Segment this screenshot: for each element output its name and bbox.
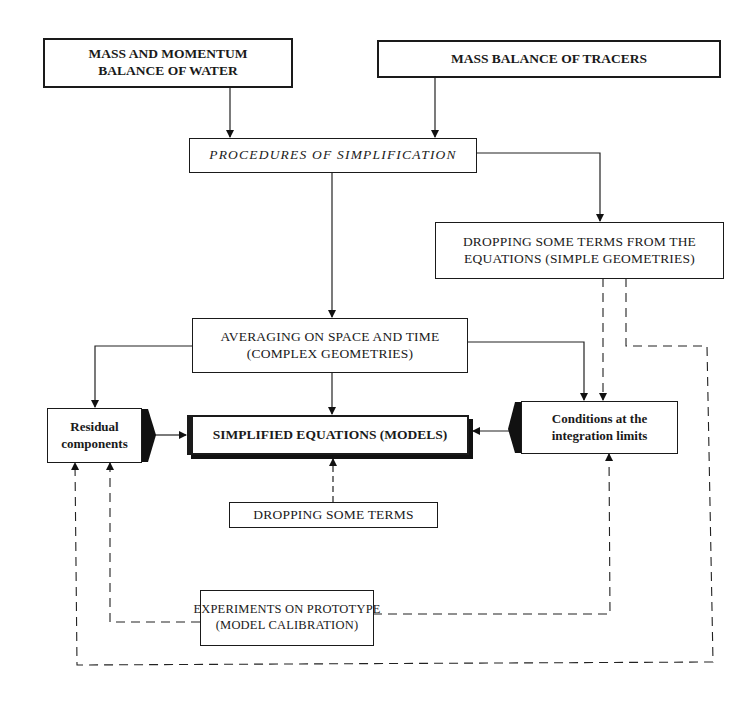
edge-experiments-to-conditions: [373, 454, 610, 614]
node-experiments-prototype: EXPERIMENTS ON PROTOTYPE (MODEL CALIBRAT…: [200, 590, 374, 646]
node-label: SIMPLIFIED EQUATIONS (MODELS): [213, 427, 448, 444]
node-label: DROPPING SOME TERMS: [253, 507, 413, 524]
node-averaging-space-time: AVERAGING ON SPACE AND TIME (COMPLEX GEO…: [192, 318, 468, 373]
node-dropping-some-terms: DROPPING SOME TERMS: [229, 502, 438, 528]
node-label: DROPPING SOME TERMS FROM THE: [463, 234, 696, 251]
node-label: EXPERIMENTS ON PROTOTYPE: [193, 602, 380, 618]
node-label: components: [61, 436, 127, 452]
node-mass-balance-tracers: MASS BALANCE OF TRACERS: [377, 40, 721, 78]
node-mass-momentum-water: MASS AND MOMENTUM BALANCE OF WATER: [43, 38, 293, 88]
node-dropping-terms-simple-geometries: DROPPING SOME TERMS FROM THE EQUATIONS (…: [435, 222, 724, 279]
node-label: integration limits: [552, 428, 648, 444]
node-label: Conditions at the: [552, 411, 647, 427]
edge-experiments-to-residual: [110, 463, 200, 622]
node-procedures-simplification: PROCEDURES OF SIMPLIFICATION: [189, 138, 477, 173]
node-label: (COMPLEX GEOMETRIES): [247, 346, 413, 363]
node-label: MASS AND MOMENTUM: [89, 46, 248, 63]
edge-averaging-to-residual: [95, 346, 192, 407]
node-residual-components: Residual components: [47, 408, 142, 463]
node-label: Residual: [70, 419, 118, 435]
edge-averaging-to-conditions: [467, 342, 584, 400]
node-label: AVERAGING ON SPACE AND TIME: [221, 329, 440, 346]
node-label: EQUATIONS (SIMPLE GEOMETRIES): [464, 251, 695, 268]
residual-pointer-icon: [141, 409, 156, 462]
edge-procedures-to-dropping-simple: [476, 153, 600, 221]
node-conditions-integration-limits: Conditions at the integration limits: [521, 401, 678, 454]
conditions-pointer-icon: [508, 402, 522, 453]
node-simplified-equations: SIMPLIFIED EQUATIONS (MODELS): [187, 415, 469, 455]
node-label: (MODEL CALIBRATION): [216, 618, 359, 634]
node-label: PROCEDURES OF SIMPLIFICATION: [209, 147, 457, 164]
node-label: MASS BALANCE OF TRACERS: [451, 51, 647, 68]
node-label: BALANCE OF WATER: [98, 63, 237, 80]
